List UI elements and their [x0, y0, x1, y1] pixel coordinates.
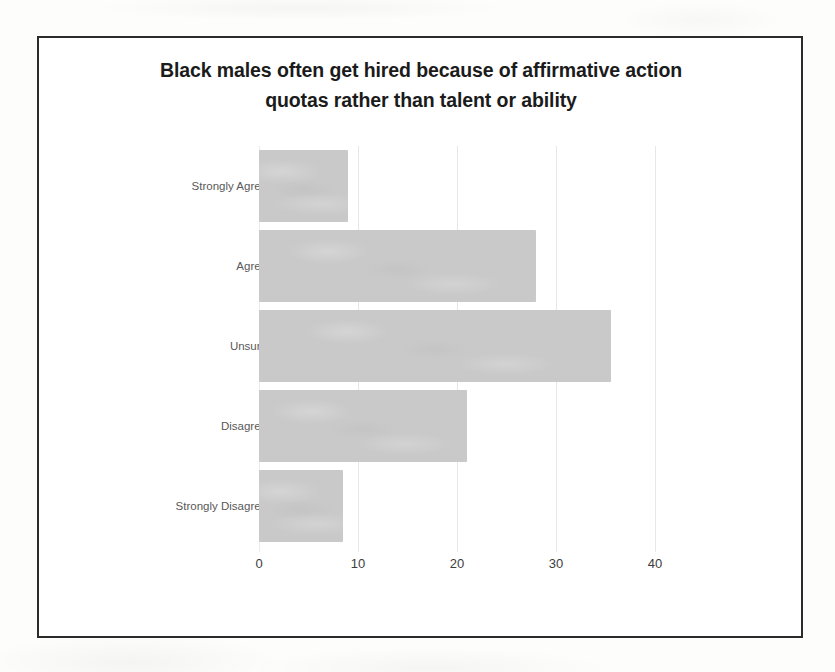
ytick-label-disagree: Disagree	[77, 386, 267, 466]
xtick-label-10: 10	[328, 556, 388, 571]
xtick-label-20: 20	[427, 556, 487, 571]
ytick-label-strongly-agree: Strongly Agree	[77, 146, 267, 226]
bar-row: Unsure	[39, 306, 801, 386]
ytick-label-unsure: Unsure	[77, 306, 267, 386]
xtick-label-30: 30	[526, 556, 586, 571]
bar-agree[interactable]	[259, 230, 536, 302]
bar-disagree[interactable]	[259, 390, 467, 462]
xtick-label-40: 40	[625, 556, 685, 571]
xtick-label-0: 0	[229, 556, 289, 571]
bar-row: Agree	[39, 226, 801, 306]
bar-row: Strongly Agree	[39, 146, 801, 226]
bar-row: Strongly Disagree	[39, 466, 801, 546]
bar-strongly-disagree[interactable]	[259, 470, 343, 542]
plot-area: Strongly Agree Agree Unsure Disagree Str…	[39, 38, 801, 636]
bar-row: Disagree	[39, 386, 801, 466]
chart-figure-frame: Black males often get hired because of a…	[37, 36, 803, 638]
ytick-label-strongly-disagree: Strongly Disagree	[77, 466, 267, 546]
ytick-label-agree: Agree	[77, 226, 267, 306]
bar-strongly-agree[interactable]	[259, 150, 348, 222]
bar-unsure[interactable]	[259, 310, 611, 382]
